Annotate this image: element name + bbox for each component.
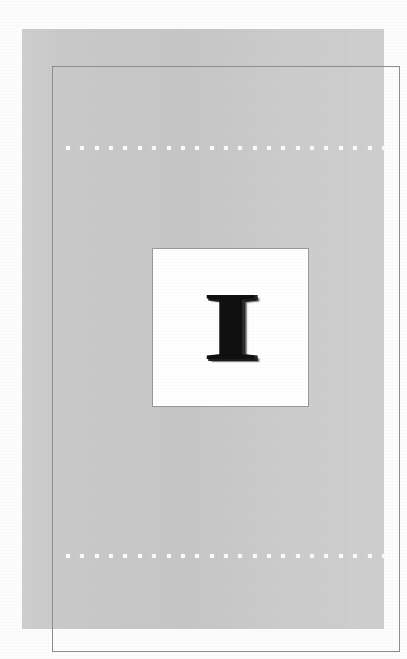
perforation-dot <box>109 146 113 150</box>
perforation-dot <box>195 554 199 558</box>
perforation-dot <box>253 554 257 558</box>
letter-card[interactable]: I <box>152 248 309 407</box>
perforation-dot <box>138 146 142 150</box>
scan-sheet: I <box>0 0 407 659</box>
perforation-dot <box>310 554 314 558</box>
perforation-dot <box>339 554 343 558</box>
perforation-dot <box>95 146 99 150</box>
perforation-dot <box>382 146 386 150</box>
perforation-dot <box>353 146 357 150</box>
perforation-dot <box>95 554 99 558</box>
perforation-dot <box>210 554 214 558</box>
perforation-dot <box>281 554 285 558</box>
perforation-dot <box>310 146 314 150</box>
perforation-dot <box>224 554 228 558</box>
perforation-dot <box>267 146 271 150</box>
perforation-dot <box>109 554 113 558</box>
perforation-dot <box>382 554 386 558</box>
letter-glyph: I <box>202 277 260 375</box>
perforation-dot <box>66 554 70 558</box>
perforation-dot <box>167 146 171 150</box>
perforation-dot <box>296 146 300 150</box>
perforation-dot <box>238 554 242 558</box>
perforation-dot <box>152 146 156 150</box>
perforation-dot <box>195 146 199 150</box>
perforation-dot <box>66 146 70 150</box>
perforation-dot <box>324 146 328 150</box>
perforation-dot <box>238 146 242 150</box>
perforation-dot <box>368 146 372 150</box>
perforation-dot <box>281 146 285 150</box>
bottom-dotted-row <box>66 552 386 559</box>
perforation-dot <box>152 554 156 558</box>
perforation-dot <box>80 554 84 558</box>
perforation-dot <box>324 554 328 558</box>
perforation-dot <box>296 554 300 558</box>
perforation-dot <box>181 146 185 150</box>
top-dotted-row <box>66 144 386 151</box>
perforation-dot <box>167 554 171 558</box>
perforation-dot <box>123 554 127 558</box>
perforation-dot <box>368 554 372 558</box>
perforation-dot <box>123 146 127 150</box>
perforation-dot <box>353 554 357 558</box>
perforation-dot <box>181 554 185 558</box>
gray-page-panel: I <box>22 29 384 629</box>
perforation-dot <box>138 554 142 558</box>
perforation-dot <box>210 146 214 150</box>
perforation-dot <box>80 146 84 150</box>
perforation-dot <box>267 554 271 558</box>
perforation-dot <box>339 146 343 150</box>
perforation-dot <box>253 146 257 150</box>
perforation-dot <box>224 146 228 150</box>
